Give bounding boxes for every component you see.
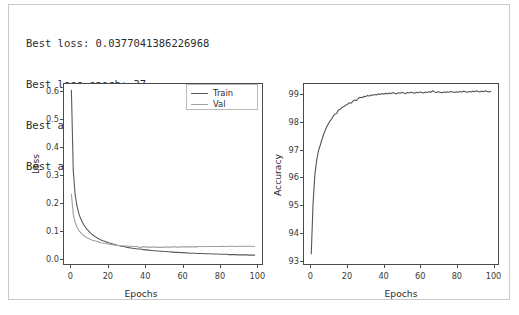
x-tick-label: 20 [342, 271, 352, 281]
y-tick-mark [300, 233, 303, 234]
loss-chart: 0.00.10.20.30.40.50.6020406080100 Loss E… [0, 0, 280, 315]
y-tick-mark [60, 259, 63, 260]
loss-x-axis-label: Epochs [125, 288, 158, 299]
y-tick-mark [300, 205, 303, 206]
x-tick-label: 60 [177, 271, 187, 281]
x-tick-mark [70, 265, 71, 268]
x-tick-mark [347, 265, 348, 268]
legend-item-train[interactable]: Train [191, 88, 252, 99]
x-tick-mark [494, 265, 495, 268]
figure-root: Best loss: 0.0377041386226968 Best loss … [0, 0, 519, 315]
y-tick-mark [300, 177, 303, 178]
x-tick-mark [420, 265, 421, 268]
y-tick-mark [60, 231, 63, 232]
x-tick-mark [183, 265, 184, 268]
loss-series-svg [64, 84, 262, 264]
loss-legend[interactable]: Train Val [186, 84, 258, 110]
y-tick-mark [300, 261, 303, 262]
y-tick-mark [300, 94, 303, 95]
x-tick-mark [108, 265, 109, 268]
x-tick-mark [310, 265, 311, 268]
y-tick-mark [60, 147, 63, 148]
y-tick-label: 95 [273, 200, 299, 210]
x-tick-label: 40 [140, 271, 150, 281]
x-tick-mark [457, 265, 458, 268]
accuracy-x-axis-label: Epochs [385, 288, 418, 299]
loss-y-axis-label: Loss [30, 154, 41, 174]
y-tick-mark [60, 91, 63, 92]
legend-swatch-val [191, 104, 208, 105]
y-tick-label: 99 [273, 89, 299, 99]
legend-swatch-train [191, 93, 208, 94]
accuracy-series-svg [304, 84, 498, 264]
y-tick-label: 0.1 [33, 226, 59, 236]
y-tick-label: 98 [273, 117, 299, 127]
y-tick-mark [60, 119, 63, 120]
accuracy-y-axis-label: Accuracy [272, 154, 283, 196]
y-tick-mark [300, 122, 303, 123]
x-tick-mark [220, 265, 221, 268]
loss-plot-area [63, 83, 263, 265]
x-tick-label: 100 [250, 271, 266, 281]
accuracy-plot-area [303, 83, 499, 265]
y-tick-label: 0.5 [33, 114, 59, 124]
x-tick-label: 80 [452, 271, 462, 281]
y-tick-label: 0.0 [33, 254, 59, 264]
x-tick-label: 60 [415, 271, 425, 281]
y-tick-label: 0.4 [33, 142, 59, 152]
y-tick-label: 0.6 [33, 86, 59, 96]
accuracy-chart: 93949596979899020406080100 Accuracy Epoc… [280, 0, 519, 315]
x-tick-label: 20 [103, 271, 113, 281]
charts-container: 0.00.10.20.30.40.50.6020406080100 Loss E… [0, 0, 519, 315]
y-tick-mark [60, 203, 63, 204]
y-tick-label: 0.2 [33, 198, 59, 208]
x-tick-mark [145, 265, 146, 268]
x-tick-mark [257, 265, 258, 268]
y-tick-mark [300, 150, 303, 151]
x-tick-label: 80 [215, 271, 225, 281]
x-tick-label: 0 [68, 271, 73, 281]
legend-label-val: Val [213, 99, 226, 110]
legend-item-val[interactable]: Val [191, 99, 252, 110]
x-tick-label: 100 [486, 271, 502, 281]
y-tick-mark [60, 175, 63, 176]
x-tick-mark [384, 265, 385, 268]
x-tick-label: 40 [378, 271, 388, 281]
y-tick-label: 93 [273, 256, 299, 266]
legend-label-train: Train [213, 88, 233, 99]
y-tick-label: 94 [273, 228, 299, 238]
x-tick-label: 0 [308, 271, 313, 281]
